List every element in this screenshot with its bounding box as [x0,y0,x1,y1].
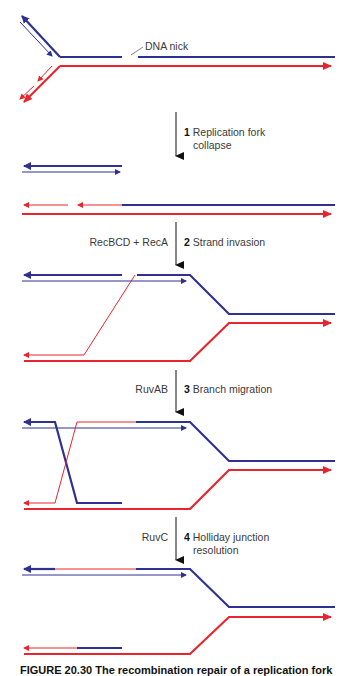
stage-fork-collapse [22,166,335,214]
stage-strand-invasion [22,275,335,361]
step-3-title: Branch migration [193,383,272,395]
step-4-enzyme: RuvC [8,531,168,543]
step-2-enzyme: RecBCD + RecA [8,236,168,248]
figure-caption: FIGURE 20.30 The recombination repair of… [20,664,332,676]
stage-replication-fork [20,16,335,102]
stage-resolution [22,569,335,654]
dna-nick-label: DNA nick [145,40,188,53]
step-1-title: Replication fork [193,126,265,138]
step-3-enzyme: RuvAB [8,383,168,395]
step-3-number: 3 [184,383,190,395]
step-2-number: 2 [184,236,190,248]
step-4-title-line2: resolution [184,544,239,556]
step-3-label: 3 Branch migration [184,383,272,396]
step-4-title: Holliday junction [193,531,269,543]
step-4-label: 4 Holliday junction resolution [184,531,269,557]
stage-branch-migration [22,422,335,509]
step-1-number: 1 [184,126,190,138]
step-1-label: 1 Replication fork collapse [184,126,265,152]
step-2-label: 2 Strand invasion [184,236,265,249]
step-4-number: 4 [184,531,190,543]
step-2-title: Strand invasion [193,236,265,248]
step-1-title-line2: collapse [184,139,232,151]
